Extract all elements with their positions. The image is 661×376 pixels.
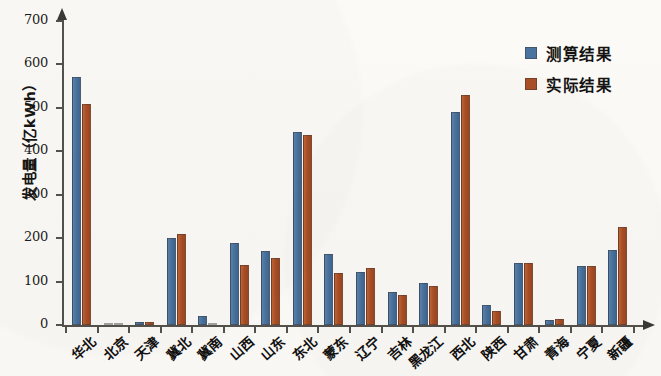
x-axis-tick — [475, 327, 477, 333]
x-axis-tick-label: 蒙东 — [319, 331, 352, 364]
x-axis-line — [62, 325, 644, 327]
bar-group — [388, 18, 408, 325]
legend-label: 测算结果 — [546, 42, 612, 64]
bar-actual — [461, 95, 470, 325]
x-axis-tick — [254, 327, 256, 333]
x-axis-tick-label: 甘肃 — [508, 331, 541, 364]
legend-item: 实际结果 — [525, 73, 612, 95]
bar-group — [104, 18, 124, 325]
x-axis-tick-label: 陕西 — [477, 331, 510, 364]
bar-actual — [82, 104, 91, 325]
bar-actual — [492, 311, 501, 325]
bar-calculated — [451, 112, 460, 325]
x-axis-tick — [128, 327, 130, 333]
x-axis-tick-label: 西北 — [445, 331, 478, 364]
x-axis-tick-label: 新疆 — [603, 331, 636, 364]
legend: 测算结果实际结果 — [525, 42, 612, 104]
x-axis-tick — [601, 327, 603, 333]
x-axis-tick-label: 青海 — [540, 331, 573, 364]
bar-group — [261, 18, 281, 325]
bar-group — [293, 18, 313, 325]
x-axis-tick — [381, 327, 383, 333]
x-axis-tick-label: 山西 — [224, 331, 257, 364]
y-axis-tick-label: 200 — [14, 229, 48, 244]
legend-swatch-calculated — [525, 47, 537, 59]
x-axis-arrowhead — [643, 320, 655, 330]
bar-calculated — [293, 132, 302, 325]
x-axis-tick — [317, 327, 319, 333]
bar-actual — [429, 286, 438, 325]
bar-actual — [240, 265, 249, 325]
bar-calculated — [261, 251, 270, 325]
bar-group — [135, 18, 155, 325]
bar-group — [72, 18, 92, 325]
y-axis-tick-label: 100 — [14, 273, 48, 288]
x-axis-tick-label: 华北 — [66, 331, 99, 364]
x-axis-tick-label: 冀南 — [193, 331, 226, 364]
bar-calculated — [72, 77, 81, 325]
legend-item: 测算结果 — [525, 42, 612, 64]
bar-calculated — [608, 250, 617, 325]
x-axis-tick — [97, 327, 99, 333]
bar-actual — [177, 234, 186, 325]
bar-calculated — [482, 305, 491, 325]
bar-calculated — [324, 254, 333, 325]
bar-actual — [524, 263, 533, 325]
bar-actual — [303, 135, 312, 325]
bar-actual — [271, 258, 280, 325]
bar-calculated — [419, 283, 428, 325]
x-axis-tick — [160, 327, 162, 333]
bar-actual — [334, 273, 343, 325]
x-axis-tick — [538, 327, 540, 333]
bar-calculated — [167, 238, 176, 325]
bar-calculated — [198, 316, 207, 325]
x-axis-tick-label: 冀北 — [161, 331, 194, 364]
x-axis-tick-label: 天津 — [129, 331, 162, 364]
bar-group — [230, 18, 250, 325]
y-axis-tick-label: 0 — [14, 316, 48, 331]
bar-group — [419, 18, 439, 325]
x-axis-tick — [286, 327, 288, 333]
x-axis-tick — [444, 327, 446, 333]
bar-actual — [366, 268, 375, 325]
x-axis-tick — [349, 327, 351, 333]
x-axis-tick-label: 东北 — [287, 331, 320, 364]
y-axis-title: 发电量（亿kWh） — [18, 49, 39, 229]
x-axis-tick — [223, 327, 225, 333]
legend-label: 实际结果 — [546, 73, 612, 95]
bar-calculated — [230, 243, 239, 325]
bar-actual — [398, 295, 407, 325]
x-axis-tick — [191, 327, 193, 333]
x-axis-tick — [65, 327, 67, 333]
x-axis-tick — [507, 327, 509, 333]
bar-calculated — [388, 292, 397, 325]
legend-swatch-actual — [525, 78, 537, 90]
x-axis-tick-label: 山东 — [256, 331, 289, 364]
y-axis-tick-label: 700 — [14, 12, 48, 27]
bar-actual — [587, 266, 596, 325]
bar-group — [482, 18, 502, 325]
x-axis-tick-label: 宁夏 — [571, 331, 604, 364]
x-axis-tick — [633, 327, 635, 333]
x-axis-tick — [570, 327, 572, 333]
bar-calculated — [356, 272, 365, 325]
bar-group — [451, 18, 471, 325]
bar-group — [167, 18, 187, 325]
bar-calculated — [514, 263, 523, 325]
x-axis-tick — [412, 327, 414, 333]
bar-group — [324, 18, 344, 325]
x-axis-tick-label: 北京 — [98, 331, 131, 364]
x-axis-tick-label: 辽宁 — [350, 331, 383, 364]
bar-group — [198, 18, 218, 325]
bar-group — [356, 18, 376, 325]
bar-calculated — [577, 266, 586, 325]
bar-chart: 0100200300400500600700 发电量（亿kWh） 华北北京天津冀… — [0, 0, 661, 376]
bar-actual — [618, 227, 627, 325]
x-axis-tick-label: 黑龙江 — [404, 331, 447, 372]
